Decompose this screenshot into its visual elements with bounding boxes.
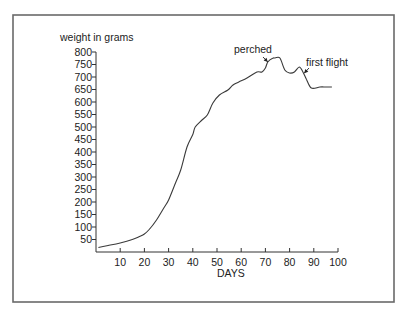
x-axis: 102030405060708090100: [96, 248, 347, 268]
x-axis-title: DAYS: [217, 267, 245, 279]
x-tick-label: 80: [284, 256, 296, 268]
y-tick-label: 450: [74, 133, 92, 145]
y-axis: 5010015020025030035040045050055060065070…: [74, 46, 96, 252]
y-tick-label: 650: [74, 83, 92, 95]
y-tick-label: 100: [74, 221, 92, 233]
x-tick-label: 50: [211, 256, 223, 268]
x-tick-label: 40: [187, 256, 199, 268]
y-tick-label: 700: [74, 71, 92, 83]
y-tick-label: 150: [74, 208, 92, 220]
y-tick-label: 50: [80, 233, 92, 245]
y-tick-label: 550: [74, 108, 92, 120]
y-tick-label: 800: [74, 46, 92, 58]
x-tick-label: 20: [139, 256, 151, 268]
y-tick-label: 600: [74, 96, 92, 108]
x-tick-label: 90: [308, 256, 320, 268]
x-tick-label: 60: [235, 256, 247, 268]
annotation-perched: perched: [234, 43, 272, 55]
x-tick-label: 10: [114, 256, 126, 268]
annotation-first-flight: first flight: [306, 56, 348, 68]
series-group: [98, 57, 332, 247]
y-tick-label: 750: [74, 58, 92, 70]
x-tick-label: 100: [329, 256, 347, 268]
x-tick-label: 70: [260, 256, 272, 268]
y-tick-label: 200: [74, 196, 92, 208]
weight-chart: weight in grams DAYS 5010015020025030035…: [0, 0, 407, 315]
y-tick-label: 300: [74, 171, 92, 183]
y-tick-label: 500: [74, 121, 92, 133]
x-tick-label: 30: [163, 256, 175, 268]
series-line-weight: [98, 57, 332, 247]
y-axis-title: weight in grams: [59, 31, 134, 43]
y-tick-label: 250: [74, 183, 92, 195]
y-tick-label: 350: [74, 158, 92, 170]
y-tick-label: 400: [74, 146, 92, 158]
annotations: perched first flight: [234, 43, 348, 73]
